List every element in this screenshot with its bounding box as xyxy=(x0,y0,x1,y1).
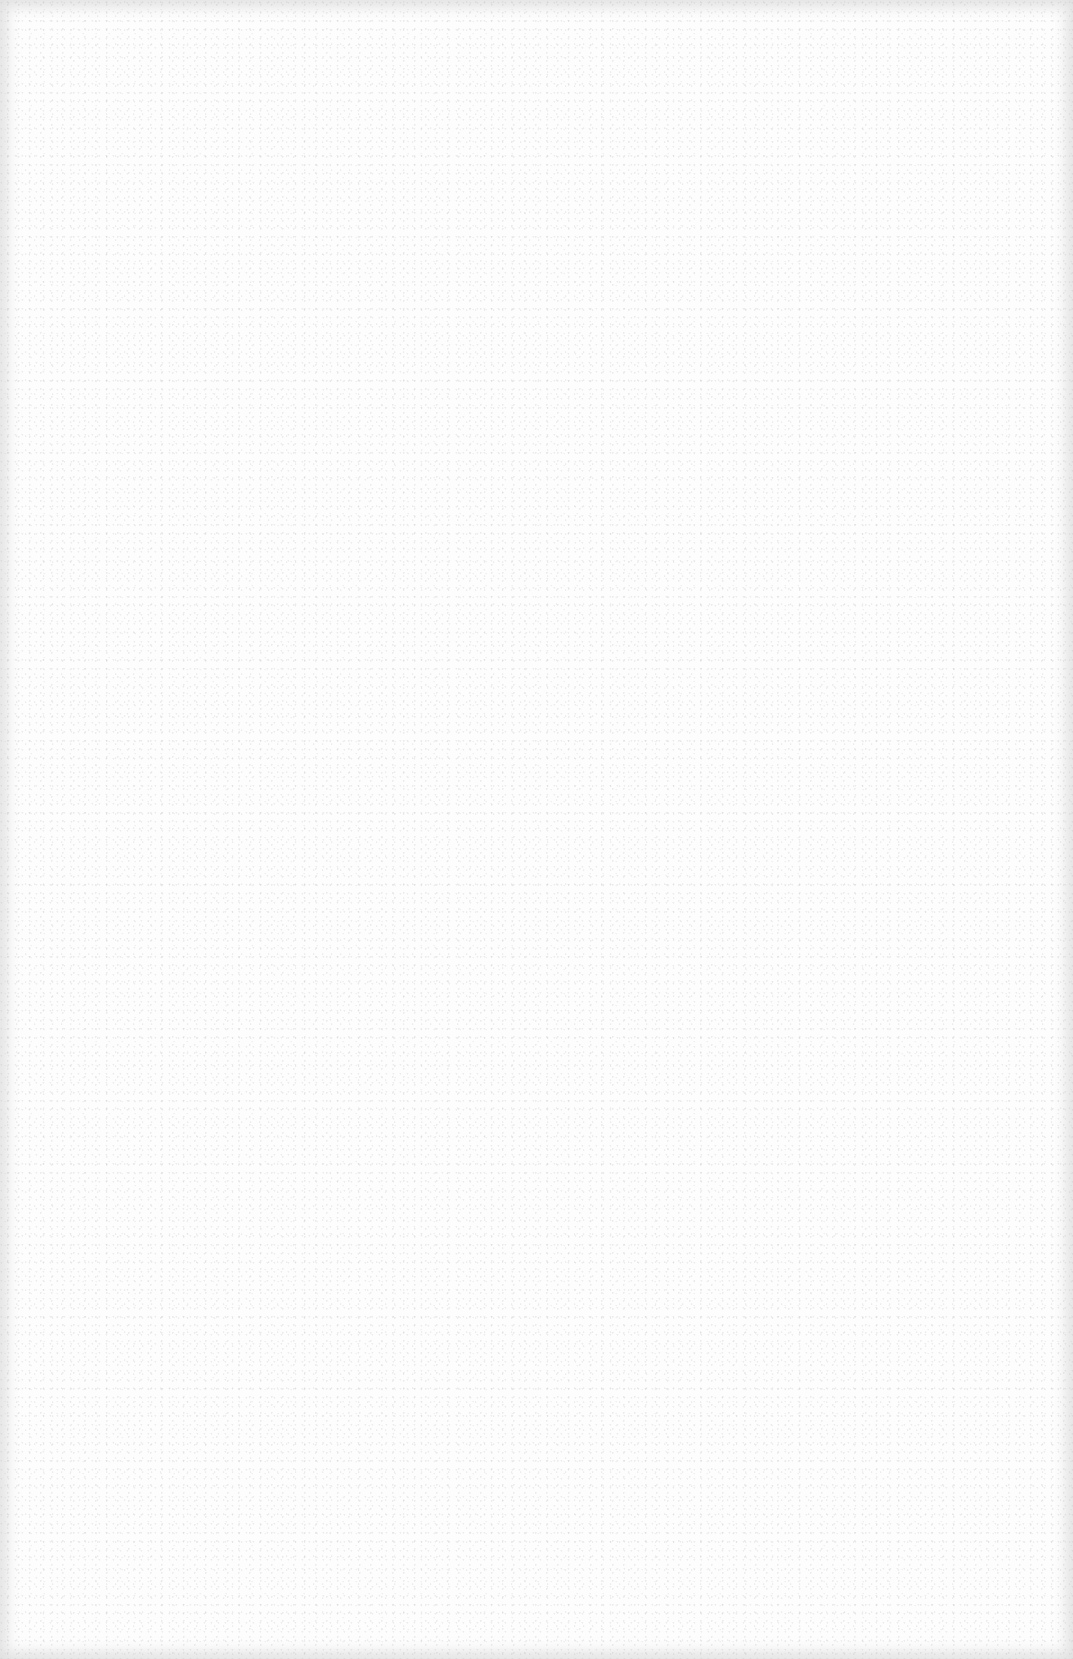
paper-texture xyxy=(0,0,1073,1659)
blank-page xyxy=(0,0,1073,1659)
